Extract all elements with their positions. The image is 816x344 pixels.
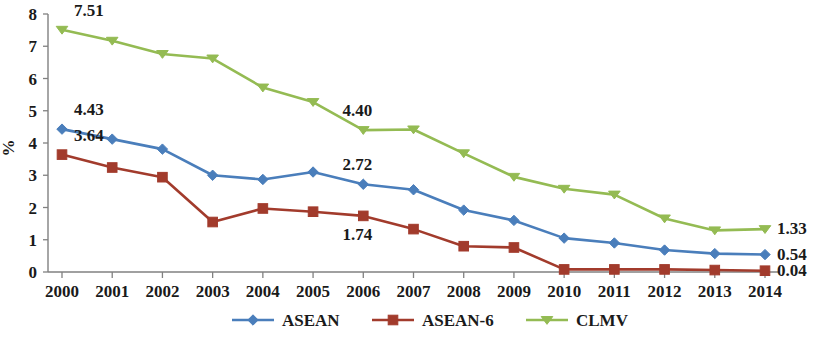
x-axis-tick-label: 2000 [45,282,79,301]
data-point-marker [660,265,670,275]
x-axis-tick-label: 2011 [598,282,631,301]
legend-label: ASEAN [282,311,340,330]
y-axis-tick-label: 8 [29,5,38,24]
data-label: 1.33 [777,219,807,238]
data-label: 2.72 [342,155,372,174]
x-axis-tick-label: 2009 [497,282,531,301]
data-point-marker [659,245,669,255]
series-clmv [56,26,771,234]
data-label: 3.64 [74,126,104,145]
x-axis-tick-label: 2003 [196,282,230,301]
data-point-marker [258,204,268,214]
data-point-marker [408,185,418,195]
data-point-marker [248,315,258,325]
y-axis-tick-label: 4 [29,134,38,153]
data-point-marker [107,134,117,144]
legend-label: CLMV [576,311,629,330]
data-point-marker [509,215,519,225]
data-point-marker [559,233,569,243]
data-label: 1.74 [342,225,372,244]
data-label: 7.51 [74,1,104,20]
x-axis-tick-label: 2001 [95,282,129,301]
legend-item-asean-6[interactable]: ASEAN-6 [372,311,494,330]
data-point-marker [509,243,519,253]
data-point-marker [208,217,218,227]
data-point-marker [409,224,419,234]
data-point-marker [258,174,268,184]
data-point-marker [559,265,569,275]
y-axis-tick-label: 3 [29,166,38,185]
data-point-marker [308,167,318,177]
data-point-marker [358,211,368,221]
data-label: 4.43 [74,100,104,119]
data-point-marker [459,241,469,251]
x-axis-tick-label: 2005 [296,282,330,301]
data-point-marker [308,207,318,217]
x-axis-tick-label: 2013 [698,282,732,301]
data-point-marker [207,170,217,180]
data-point-marker [107,163,117,173]
x-axis-tick-label: 2007 [397,282,432,301]
legend-label: ASEAN-6 [422,311,494,330]
chart-canvas: 012345678 200020012002200320042005200620… [0,0,816,344]
line-chart: 012345678 200020012002200320042005200620… [0,0,816,344]
data-point-marker [710,248,720,258]
data-point-marker [609,238,619,248]
y-axis-tick-label: 7 [29,37,38,56]
y-axis-tick-label: 5 [29,102,38,121]
legend-item-clmv[interactable]: CLMV [526,311,629,330]
x-axis-tick-label: 2004 [246,282,281,301]
y-axis-tick-label: 6 [29,70,38,89]
data-point-marker [710,265,720,275]
x-axis-tick-label: 2008 [447,282,481,301]
y-axis-tick-label: 1 [29,231,38,250]
data-point-marker [760,249,770,259]
x-axis: 2000200120022003200420052006200720082009… [45,272,783,301]
y-axis-title: % [0,140,18,157]
y-axis-tick-label: 0 [29,263,38,282]
data-label: 4.40 [342,101,372,120]
x-axis-tick-label: 2010 [547,282,581,301]
data-point-marker [760,266,770,276]
data-point-marker [459,205,469,215]
data-point-marker [158,172,168,182]
chart-legend: ASEANASEAN-6CLMV [232,311,629,330]
data-label: 0.04 [777,261,807,280]
data-point-marker [57,124,67,134]
x-axis-tick-label: 2014 [748,282,783,301]
x-axis-tick-label: 2012 [648,282,682,301]
y-axis-tick-label: 2 [29,199,38,218]
data-point-marker [57,150,67,160]
plot-area [56,26,771,275]
data-point-marker [388,315,398,325]
data-point-marker [610,265,620,275]
x-axis-tick-label: 2002 [145,282,179,301]
data-point-marker [157,144,167,154]
y-axis: 012345678 [29,5,49,282]
series-asean-6 [57,150,770,276]
data-point-marker [358,179,368,189]
legend-item-asean[interactable]: ASEAN [232,311,340,330]
x-axis-tick-label: 2006 [346,282,380,301]
series-asean [57,124,770,260]
